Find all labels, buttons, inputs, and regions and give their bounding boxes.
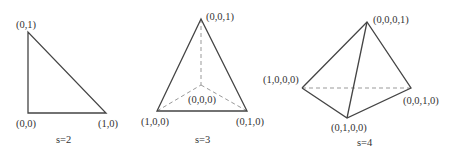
caption-s2: s=2 [56,134,71,145]
vertex-label-right: (0,0,1,0) [403,95,439,107]
simplex-diagram: (0,1) (0,0) (1,0) s=2 (0,0,1) (1,0,0) (0… [0,0,452,157]
vertex-label-bottom: (0,1,0,0) [331,122,367,134]
vertex-label-right: (0,1,0) [236,116,264,128]
vertex-label-apex: (0,0,1) [206,11,234,23]
triangle-edges [28,32,106,113]
vertex-label-left: (1,0,0,0) [263,74,299,86]
front-edge [347,22,367,118]
vertex-label-apex: (0,0,0,1) [373,14,409,26]
vertex-label-right: (1,0) [98,118,119,130]
vertex-label-top: (0,1) [16,19,37,31]
simplex-s4: (0,0,0,1) (1,0,0,0) (0,0,1,0) (0,1,0,0) … [263,14,439,148]
vertex-label-center: (0,0,0) [188,94,216,106]
vertex-label-origin: (0,0) [16,118,37,130]
vertex-label-left: (1,0,0) [141,116,169,128]
caption-s4: s=4 [357,137,373,148]
simplex-s3: (0,0,1) (1,0,0) (0,1,0) (0,0,0) s=3 [141,11,264,145]
caption-s3: s=3 [195,134,210,145]
simplex-s2: (0,1) (0,0) (1,0) s=2 [16,19,119,145]
